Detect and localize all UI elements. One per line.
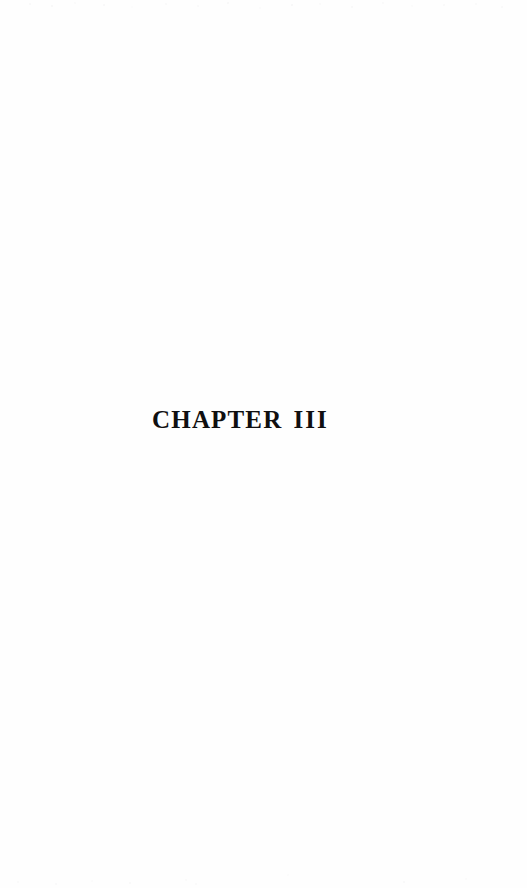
- scan-speckle-top-edge: [0, 0, 527, 14]
- scanned-page: CHAPTERIII: [0, 0, 527, 888]
- chapter-heading-numeral: III: [293, 406, 329, 433]
- chapter-heading-word: CHAPTER: [152, 406, 282, 433]
- chapter-heading-block: CHAPTERIII: [0, 407, 527, 433]
- chapter-heading: CHAPTERIII: [152, 407, 329, 433]
- scan-speckle-bottom-edge: [0, 872, 527, 888]
